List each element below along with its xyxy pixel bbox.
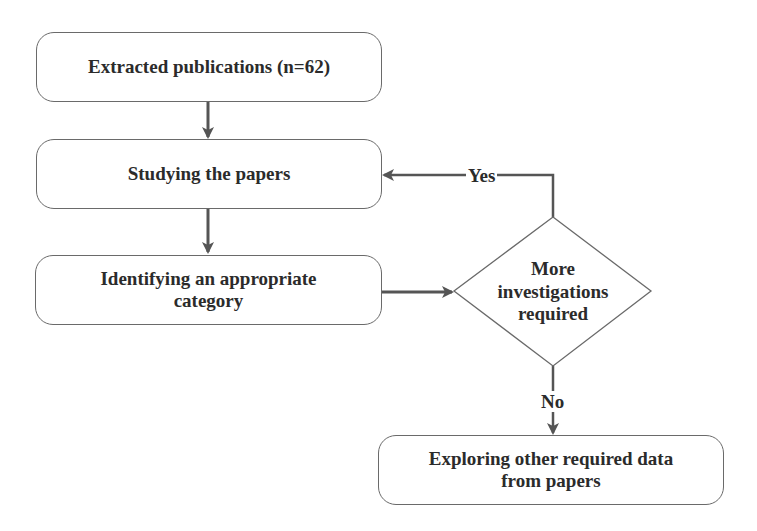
node-studying-papers: Studying the papers [36,139,382,209]
node-decision-more-investigations: More investigations required [474,250,632,334]
node-label: Extracted publications (n=62) [88,56,330,78]
node-label: Studying the papers [128,163,291,185]
decision-label-line2: investigations [498,281,609,304]
edge-label-no: No [539,391,566,412]
node-extracted-publications: Extracted publications (n=62) [36,32,382,102]
node-exploring-other-data: Exploring other required data from paper… [378,435,724,505]
edge-label-yes: Yes [466,166,497,185]
node-identifying-category: Identifying an appropriate category [35,255,382,325]
node-label-line1: Exploring other required data [429,448,673,470]
node-label-line2: category [174,290,244,312]
flowchart-canvas: Extracted publications (n=62) Studying t… [0,0,757,531]
node-label-line2: from papers [501,470,600,492]
decision-label-line1: More [531,258,575,281]
decision-label-line3: required [518,303,588,326]
node-label-line1: Identifying an appropriate [100,268,316,290]
